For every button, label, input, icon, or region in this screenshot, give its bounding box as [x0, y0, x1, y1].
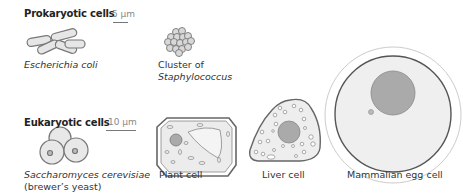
prokaryotic-heading: Prokaryotic cells	[24, 8, 115, 19]
prokaryotic-scale-label: 5 µm	[112, 9, 135, 19]
staphylococcus-illustration	[165, 28, 195, 57]
plant-cell-caption: Plant cell	[159, 169, 202, 181]
staphylococcus-caption-line2: Staphylococcus	[158, 71, 232, 83]
eukaryotic-scale-bar	[106, 130, 136, 131]
liver-cell-caption: Liver cell	[262, 169, 305, 181]
e-coli-illustration	[26, 28, 85, 56]
yeast-caption-line1: Saccharomyces cerevisiae	[24, 169, 150, 181]
yeast-caption-line2: (brewer’s yeast)	[24, 181, 101, 193]
mammalian-egg-illustration	[325, 47, 461, 183]
yeast-illustration	[40, 127, 88, 164]
e-coli-caption: Escherichia coli	[24, 59, 98, 71]
plant-cell-illustration	[157, 118, 236, 176]
cell-illustrations	[0, 0, 463, 195]
mammalian-egg-caption: Mammalian egg cell	[347, 169, 443, 181]
eukaryotic-heading: Eukaryotic cells	[24, 117, 110, 128]
staphylococcus-caption-line1: Cluster of	[158, 59, 204, 71]
liver-cell-illustration	[250, 99, 321, 161]
eukaryotic-scale-label: 10 µm	[108, 117, 137, 127]
prokaryotic-scale-bar	[113, 22, 128, 23]
